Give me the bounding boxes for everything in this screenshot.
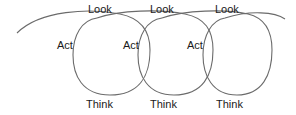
cycle-loop-2: [97, 11, 213, 95]
think-label-3: Think: [216, 98, 243, 110]
act-label-1: Act: [57, 39, 73, 51]
cycle-loop-3: [162, 11, 285, 95]
act-label-2: Act: [123, 39, 139, 51]
look-label-1: Look: [88, 3, 112, 15]
think-label-1: Think: [86, 98, 113, 110]
act-label-3: Act: [187, 39, 203, 51]
spiral-diagram: [0, 0, 296, 115]
cycle-loop-1: [17, 11, 150, 95]
look-label-3: Look: [215, 3, 239, 15]
look-label-2: Look: [150, 3, 174, 15]
think-label-2: Think: [150, 98, 177, 110]
